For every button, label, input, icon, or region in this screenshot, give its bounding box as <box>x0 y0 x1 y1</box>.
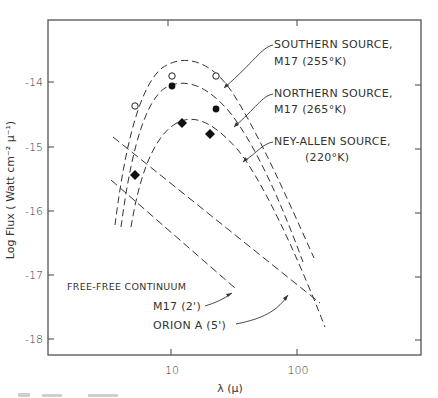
free-free-orion-a-line <box>113 137 320 303</box>
free-free-m17-line <box>111 180 235 288</box>
caption-fragment <box>18 393 118 397</box>
ney-allen-source-points <box>130 118 215 180</box>
y-tick-label: -14 <box>25 76 43 89</box>
x-tick-label: 10 <box>165 364 179 377</box>
y-axis-right <box>415 85 421 340</box>
y-tick-label: -16 <box>25 205 43 218</box>
sed-chart: -14 -15 -16 -17 -18 10 100 λ (μ) Log Flu… <box>0 0 438 398</box>
free-free-continuum-label: FREE-FREE CONTINUUM <box>67 281 186 292</box>
svg-text:M17 (255°K): M17 (255°K) <box>274 55 347 68</box>
svg-text:ORION A (5'): ORION A (5') <box>153 319 226 332</box>
x-tick-label: 100 <box>288 364 309 377</box>
y-tick-label: -18 <box>25 333 43 346</box>
y-axis: -14 -15 -16 -17 -18 <box>25 76 54 346</box>
svg-text:(220°K): (220°K) <box>305 151 349 164</box>
y-axis-label: Log Flux ( Watt cm⁻² μ⁻¹) <box>4 121 17 259</box>
svg-text:NEY-ALLEN SOURCE,: NEY-ALLEN SOURCE, <box>274 135 391 148</box>
svg-text:NORTHERN SOURCE,: NORTHERN SOURCE, <box>274 87 393 100</box>
svg-text:M17 (2'): M17 (2') <box>153 300 201 313</box>
svg-text:M17 (265°K): M17 (265°K) <box>274 103 347 116</box>
northern-source-label: NORTHERN SOURCE, M17 (265°K) <box>234 87 393 127</box>
ney-allen-source-label: NEY-ALLEN SOURCE, (220°K) <box>243 135 391 164</box>
svg-text:SOUTHERN SOURCE,: SOUTHERN SOURCE, <box>274 38 393 51</box>
y-tick-label: -15 <box>25 141 43 154</box>
southern-source-label: SOUTHERN SOURCE, M17 (255°K) <box>224 38 393 88</box>
x-axis-label: λ (μ) <box>217 382 243 395</box>
plot-frame <box>48 20 421 355</box>
y-tick-label: -17 <box>25 269 43 282</box>
northern-source-points <box>169 83 220 113</box>
m17-free-free-label: M17 (2') <box>153 293 232 313</box>
